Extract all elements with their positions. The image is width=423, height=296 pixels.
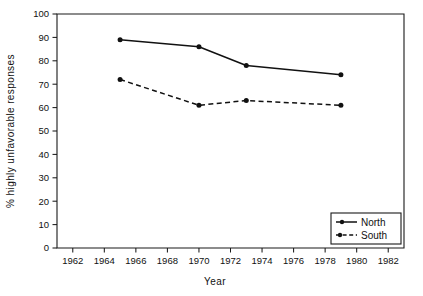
y-tick-label: 50	[38, 125, 49, 136]
data-point-marker	[338, 72, 343, 77]
x-tick-label: 1972	[220, 255, 241, 266]
y-tick-label: 60	[38, 102, 49, 113]
x-axis-ticks: 1962196419661968197019721974197619781980…	[62, 248, 399, 266]
x-axis-title: Year	[204, 276, 226, 287]
data-point-marker	[196, 44, 201, 49]
chart-figure: 0102030405060708090100 19621964196619681…	[0, 0, 423, 296]
x-tick-label: 1962	[62, 255, 83, 266]
data-series-group	[118, 37, 344, 108]
x-tick-label: 1976	[283, 255, 304, 266]
x-tick-label: 1982	[378, 255, 399, 266]
legend-label-south: South	[361, 230, 387, 241]
data-series-north	[118, 37, 344, 77]
data-point-marker	[244, 63, 249, 68]
legend-label-north: North	[361, 217, 385, 228]
chart-legend: North South	[331, 213, 401, 244]
data-point-marker	[118, 77, 123, 82]
legend-marker-south	[338, 233, 342, 237]
legend-marker-north	[340, 220, 344, 224]
x-tick-label: 1980	[346, 255, 367, 266]
y-tick-label: 70	[38, 79, 49, 90]
y-tick-label: 40	[38, 149, 49, 160]
y-tick-label: 0	[44, 242, 49, 253]
data-point-marker	[118, 37, 123, 42]
y-tick-label: 90	[38, 32, 49, 43]
x-tick-label: 1968	[157, 255, 178, 266]
series-line	[120, 40, 341, 75]
y-axis-ticks: 0102030405060708090100	[33, 8, 57, 253]
x-tick-label: 1974	[251, 255, 272, 266]
data-series-south	[118, 77, 344, 108]
x-tick-label: 1970	[188, 255, 209, 266]
x-tick-label: 1964	[94, 255, 115, 266]
data-point-marker	[338, 103, 343, 108]
y-axis-title: % highly unfavorable responses	[5, 54, 16, 208]
y-tick-label: 10	[38, 219, 49, 230]
data-point-marker	[196, 103, 201, 108]
y-tick-label: 80	[38, 55, 49, 66]
line-chart: 0102030405060708090100 19621964196619681…	[0, 0, 423, 296]
x-tick-label: 1966	[125, 255, 146, 266]
y-tick-label: 30	[38, 172, 49, 183]
data-point-marker	[244, 98, 249, 103]
x-tick-label: 1978	[315, 255, 336, 266]
y-tick-label: 20	[38, 196, 49, 207]
y-tick-label: 100	[33, 8, 49, 19]
series-line	[120, 80, 341, 106]
